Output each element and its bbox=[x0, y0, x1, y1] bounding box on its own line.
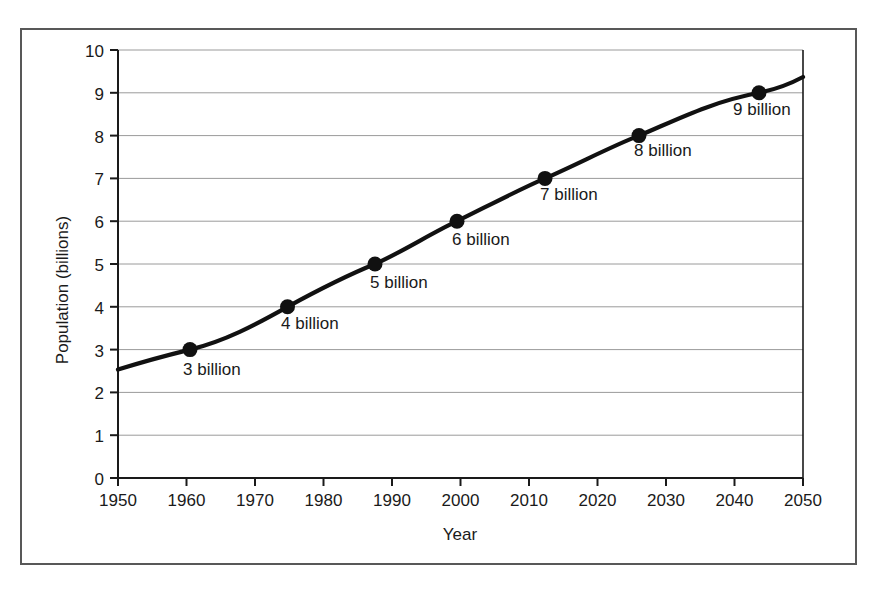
label-7-billion: 7 billion bbox=[540, 185, 598, 204]
x-axis-title: Year bbox=[443, 525, 478, 544]
data-point-4-billion[interactable] bbox=[280, 299, 295, 314]
x-tick-label-1980: 1980 bbox=[305, 491, 343, 510]
data-point-5-billion[interactable] bbox=[368, 257, 383, 272]
y-tick-label-6: 6 bbox=[95, 213, 104, 232]
x-tick-label-1950: 1950 bbox=[99, 491, 137, 510]
data-point-labels: 3 billion 4 billion 5 billion 6 billion … bbox=[183, 100, 791, 379]
x-tick-label-2010: 2010 bbox=[510, 491, 548, 510]
label-8-billion: 8 billion bbox=[634, 141, 692, 160]
y-tick-label-4: 4 bbox=[95, 299, 104, 318]
x-tick-label-1970: 1970 bbox=[236, 491, 274, 510]
y-tick-label-9: 9 bbox=[95, 85, 104, 104]
y-tick-labels: 10 9 8 7 6 5 4 3 2 1 0 bbox=[85, 42, 104, 489]
label-5-billion: 5 billion bbox=[370, 273, 428, 292]
x-tick-label-2020: 2020 bbox=[579, 491, 617, 510]
x-tick-label-2050: 2050 bbox=[784, 491, 822, 510]
y-tick-label-5: 5 bbox=[95, 256, 104, 275]
population-line-chart: 10 9 8 7 6 5 4 3 2 1 0 1950 1960 1970 19… bbox=[0, 0, 875, 589]
data-point-9-billion[interactable] bbox=[752, 85, 767, 100]
y-axis-ticks bbox=[110, 50, 118, 478]
x-tick-labels: 1950 1960 1970 1980 1990 2000 2010 2020 … bbox=[99, 491, 822, 510]
data-point-3-billion[interactable] bbox=[183, 342, 198, 357]
x-tick-label-2030: 2030 bbox=[647, 491, 685, 510]
label-4-billion: 4 billion bbox=[281, 314, 339, 333]
y-tick-label-0: 0 bbox=[95, 470, 104, 489]
data-point-6-billion[interactable] bbox=[450, 214, 465, 229]
label-9-billion: 9 billion bbox=[733, 100, 791, 119]
y-tick-label-8: 8 bbox=[95, 128, 104, 147]
y-tick-label-7: 7 bbox=[95, 170, 104, 189]
y-tick-label-2: 2 bbox=[95, 384, 104, 403]
label-3-billion: 3 billion bbox=[183, 360, 241, 379]
x-tick-label-1960: 1960 bbox=[168, 491, 206, 510]
label-6-billion: 6 billion bbox=[452, 230, 510, 249]
data-point-7-billion[interactable] bbox=[538, 171, 553, 186]
x-tick-label-2000: 2000 bbox=[442, 491, 480, 510]
x-axis-ticks bbox=[118, 478, 803, 486]
y-tick-label-3: 3 bbox=[95, 342, 104, 361]
x-tick-label-2040: 2040 bbox=[716, 491, 754, 510]
y-tick-label-10: 10 bbox=[85, 42, 104, 61]
y-tick-label-1: 1 bbox=[95, 427, 104, 446]
figure-container: 10 9 8 7 6 5 4 3 2 1 0 1950 1960 1970 19… bbox=[0, 0, 875, 589]
x-tick-label-1990: 1990 bbox=[373, 491, 411, 510]
y-axis-title: Population (billions) bbox=[53, 216, 72, 364]
